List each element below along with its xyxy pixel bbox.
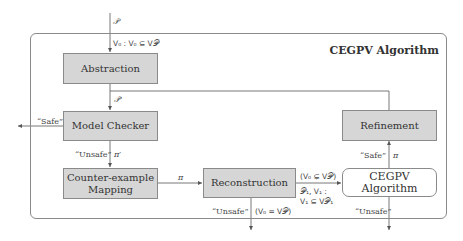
safe-output-label: “Safe” bbox=[37, 117, 63, 126]
abstract-program-label: 𝒫′ bbox=[114, 95, 122, 104]
cex-label: π bbox=[178, 173, 183, 182]
inner-cex-label: π bbox=[393, 151, 398, 160]
reconstruction-node: Reconstruction bbox=[203, 168, 296, 198]
model-checker-node: Model Checker bbox=[63, 111, 158, 141]
counterexample-mapping-label-2: Mapping bbox=[88, 184, 133, 196]
inner-cegpv-label: CEGPV Algorithm bbox=[343, 171, 436, 195]
inner-cegpv-node: CEGPV Algorithm bbox=[342, 168, 437, 197]
full-cond-label: (V₀ = V𝒫) bbox=[255, 207, 291, 216]
abstract-cex-label: π′ bbox=[114, 150, 121, 159]
counterexample-mapping-node: Counter-example Mapping bbox=[63, 168, 158, 199]
refinement-node: Refinement bbox=[342, 110, 437, 141]
unsafe-mc-label: “Unsafe” bbox=[75, 150, 112, 159]
sub-problem-label-2: V₁ ⊆ V𝒫₁ bbox=[300, 197, 333, 206]
reconstruction-label: Reconstruction bbox=[211, 177, 288, 189]
model-checker-label: Model Checker bbox=[72, 120, 149, 132]
refinement-label: Refinement bbox=[360, 120, 418, 132]
initial-vars-label: V₀ : V₀ ⊆ V𝒫 bbox=[113, 39, 159, 48]
diagram-title: CEGPV Algorithm bbox=[329, 44, 439, 57]
safe-inner-label: “Safe” bbox=[360, 151, 386, 160]
sub-problem-label-1: 𝒫₁, V₁ : bbox=[300, 187, 327, 196]
input-program-label: 𝒫 bbox=[113, 17, 119, 26]
partial-cond-label: (V₀ ⊊ V𝒫) bbox=[300, 172, 336, 181]
abstraction-node: Abstraction bbox=[63, 53, 158, 84]
counterexample-mapping-label-1: Counter-example bbox=[67, 172, 154, 184]
abstraction-label: Abstraction bbox=[81, 63, 140, 75]
unsafe-recon-label: “Unsafe” bbox=[212, 207, 249, 216]
unsafe-inner-label: “Unsafe” bbox=[355, 207, 392, 216]
